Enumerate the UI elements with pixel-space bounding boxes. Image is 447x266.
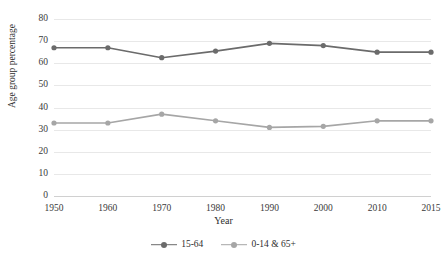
y-tick-label: 30 xyxy=(39,125,49,135)
data-point xyxy=(321,124,326,129)
series-line xyxy=(54,43,431,57)
y-tick-label: 60 xyxy=(39,59,49,69)
legend-marker-icon xyxy=(151,240,177,249)
data-point xyxy=(105,120,110,125)
x-tick-label: 1960 xyxy=(98,204,117,214)
data-point xyxy=(213,48,218,53)
y-tick-label: 50 xyxy=(39,81,49,91)
y-tick-label: 40 xyxy=(39,103,49,113)
series-line xyxy=(54,114,431,127)
data-point xyxy=(428,118,433,123)
x-tick-label: 2010 xyxy=(368,204,387,214)
series-1 xyxy=(51,41,433,61)
legend-label: 0-14 & 65+ xyxy=(251,240,295,250)
x-tick-label: 1980 xyxy=(206,204,225,214)
gridline xyxy=(54,196,431,197)
data-point xyxy=(321,43,326,48)
y-tick-label: 70 xyxy=(39,36,49,46)
y-tick-label: 0 xyxy=(43,191,48,201)
legend-entry[interactable]: 15-64 xyxy=(151,240,203,250)
data-point xyxy=(267,41,272,46)
x-tick-label: 2015 xyxy=(422,204,441,214)
data-point xyxy=(213,118,218,123)
data-point xyxy=(428,50,433,55)
legend-marker-icon xyxy=(221,240,247,249)
data-point xyxy=(375,50,380,55)
y-tick-label: 80 xyxy=(39,14,49,24)
chart-legend: 15-640-14 & 65+ xyxy=(0,240,447,250)
legend-entry[interactable]: 0-14 & 65+ xyxy=(221,240,295,250)
x-tick-label: 1970 xyxy=(152,204,171,214)
y-tick-label: 20 xyxy=(39,147,49,157)
data-point xyxy=(51,45,56,50)
data-point xyxy=(159,112,164,117)
y-tick-label: 10 xyxy=(39,169,49,179)
x-tick-label: 2000 xyxy=(314,204,333,214)
data-point xyxy=(267,125,272,130)
data-point xyxy=(105,45,110,50)
x-tick-label: 1950 xyxy=(45,204,64,214)
data-point xyxy=(51,120,56,125)
x-axis-title: Year xyxy=(0,216,447,226)
series-2 xyxy=(51,112,433,130)
data-point xyxy=(375,118,380,123)
x-tick-label: 1990 xyxy=(260,204,279,214)
legend-label: 15-64 xyxy=(181,240,203,250)
line-chart-figure: Age group percentage 80706050403020100 1… xyxy=(0,0,447,266)
series-layer xyxy=(54,19,431,196)
y-axis-title: Age group percentage xyxy=(8,24,18,108)
plot-area: 80706050403020100 1950196019701980199020… xyxy=(54,19,431,196)
data-point xyxy=(159,55,164,60)
